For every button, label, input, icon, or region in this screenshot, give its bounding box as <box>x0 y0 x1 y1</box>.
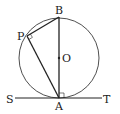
label-p: P <box>17 30 25 43</box>
label-o: O <box>62 52 71 65</box>
label-a: A <box>54 100 64 113</box>
geometry-diagram: B P O S A T <box>0 0 120 114</box>
right-angle-marker-a <box>59 93 64 98</box>
chord-pb <box>27 17 59 36</box>
label-b: B <box>55 4 63 17</box>
label-s: S <box>6 93 14 106</box>
center-point-o <box>58 57 60 59</box>
chord-pa <box>27 36 59 98</box>
label-t: T <box>103 93 111 106</box>
